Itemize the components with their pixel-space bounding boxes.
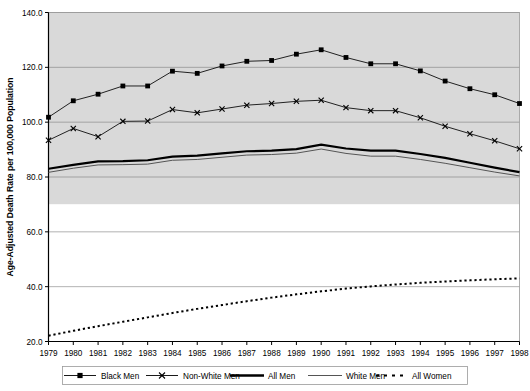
y-tick-label: 40.0 — [27, 283, 43, 292]
y-tick-label: 100.0 — [22, 118, 43, 127]
data-point-marker — [344, 55, 349, 60]
legend-label: All Men — [268, 372, 296, 381]
data-point-marker — [170, 69, 175, 74]
x-tick-label: 1989 — [287, 349, 306, 358]
x-tick-label: 1995 — [436, 349, 455, 358]
x-tick-label: 1990 — [312, 349, 331, 358]
data-point-marker — [368, 61, 373, 66]
data-point-marker — [393, 61, 398, 66]
data-point-marker — [517, 101, 522, 106]
y-axis-label: Age-Adjusted Death Rate per 100,000 Popu… — [5, 77, 15, 276]
legend-label: Black Men — [101, 372, 140, 381]
y-tick-label: 140.0 — [22, 9, 43, 18]
data-point-marker — [220, 64, 225, 69]
y-tick-label: 60.0 — [27, 228, 43, 237]
x-tick-label: 1998 — [510, 349, 529, 358]
x-tick-label: 1985 — [188, 349, 207, 358]
data-point-marker — [145, 84, 150, 89]
y-tick-label: 80.0 — [27, 173, 43, 182]
data-point-marker — [443, 79, 448, 84]
data-point-marker — [96, 92, 101, 97]
data-point-marker — [294, 52, 299, 57]
legend-label: White Men — [346, 372, 386, 381]
plot-background-lower — [49, 204, 520, 341]
data-point-marker — [195, 71, 200, 76]
x-tick-label: 1987 — [238, 349, 257, 358]
data-point-marker — [468, 86, 473, 91]
x-tick-label: 1996 — [461, 349, 480, 358]
x-tick-label: 1994 — [411, 349, 430, 358]
x-tick-label: 1980 — [64, 349, 83, 358]
x-tick-label: 1982 — [114, 349, 133, 358]
x-tick-label: 1979 — [39, 349, 58, 358]
plot-background-upper — [49, 13, 520, 205]
chart-container: 20.040.060.080.0100.0120.0140.0197919801… — [0, 0, 530, 391]
legend-label: All Women — [412, 372, 452, 381]
data-point-marker — [319, 47, 324, 52]
x-tick-label: 1986 — [213, 349, 232, 358]
data-point-marker — [269, 58, 274, 63]
y-tick-label: 20.0 — [27, 338, 43, 347]
data-point-marker — [46, 115, 51, 120]
x-tick-label: 1983 — [139, 349, 158, 358]
x-tick-label: 1988 — [262, 349, 281, 358]
x-tick-label: 1984 — [163, 349, 182, 358]
legend-marker-square — [77, 373, 82, 378]
x-tick-label: 1991 — [337, 349, 356, 358]
y-tick-label: 120.0 — [22, 63, 43, 72]
data-point-marker — [418, 68, 423, 73]
x-tick-label: 1997 — [486, 349, 505, 358]
data-point-marker — [71, 98, 76, 103]
data-point-marker — [120, 84, 125, 89]
legend: Black MenNon-White MenAll MenWhite MenAl… — [63, 367, 468, 385]
line-chart: 20.040.060.080.0100.0120.0140.0197919801… — [0, 0, 530, 391]
x-tick-label: 1992 — [362, 349, 381, 358]
data-point-marker — [492, 92, 497, 97]
x-tick-label: 1993 — [386, 349, 405, 358]
data-point-marker — [244, 59, 249, 64]
x-tick-label: 1981 — [89, 349, 108, 358]
